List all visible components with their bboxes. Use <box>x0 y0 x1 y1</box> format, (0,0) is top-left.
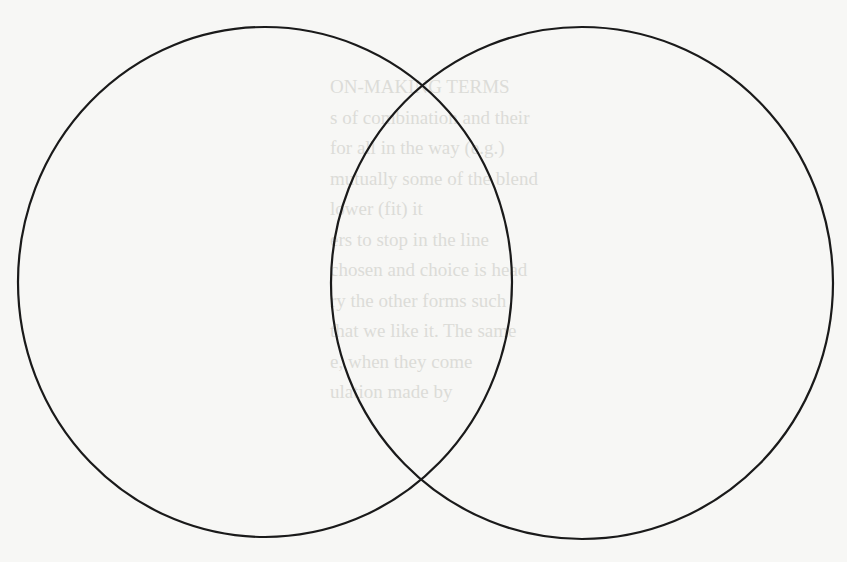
right-circle <box>331 27 833 539</box>
venn-diagram <box>0 0 847 562</box>
left-circle <box>18 27 512 537</box>
venn-diagram-page: ON-MAKING TERMS s of combination and the… <box>0 0 847 562</box>
